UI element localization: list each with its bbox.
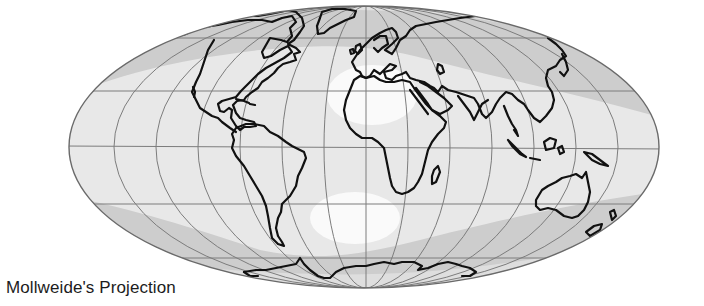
map-caption: Mollweide's Projection: [6, 278, 176, 298]
mollweide-world-map: [0, 0, 704, 306]
south-highlight: [310, 192, 400, 244]
caribbean-hispaniola: [250, 104, 255, 105]
